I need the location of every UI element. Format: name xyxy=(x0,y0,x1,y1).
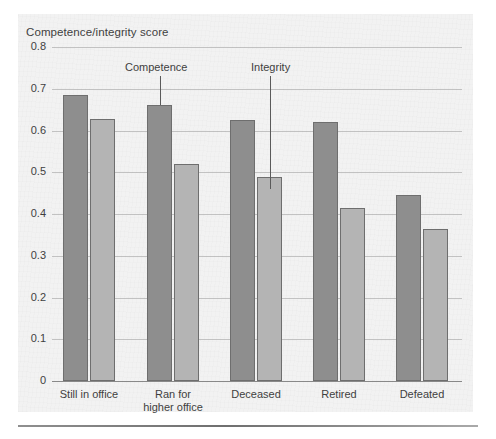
bar-integrity-3 xyxy=(340,208,365,381)
annotation-leader-line-competence xyxy=(160,76,161,105)
x-tick-label-4: Defeated xyxy=(362,388,482,401)
annotation-label-competence: Competence xyxy=(125,61,187,73)
bar-competence-0 xyxy=(63,95,88,381)
bar-integrity-1 xyxy=(174,164,199,381)
gridline xyxy=(52,381,462,382)
bars-layer xyxy=(0,0,496,381)
annotation-leader-line-integrity xyxy=(270,76,271,189)
annotation-label-integrity: Integrity xyxy=(251,61,290,73)
bar-competence-2 xyxy=(230,120,255,381)
bar-competence-3 xyxy=(313,122,338,381)
bar-competence-4 xyxy=(396,195,421,381)
chart-figure: Competence/integrity score 0.80.70.60.50… xyxy=(0,0,496,439)
bar-integrity-4 xyxy=(423,229,448,381)
bar-integrity-0 xyxy=(90,119,115,381)
bottom-rule-divider xyxy=(18,425,478,427)
bar-integrity-2 xyxy=(257,177,282,381)
bar-competence-1 xyxy=(147,105,172,381)
